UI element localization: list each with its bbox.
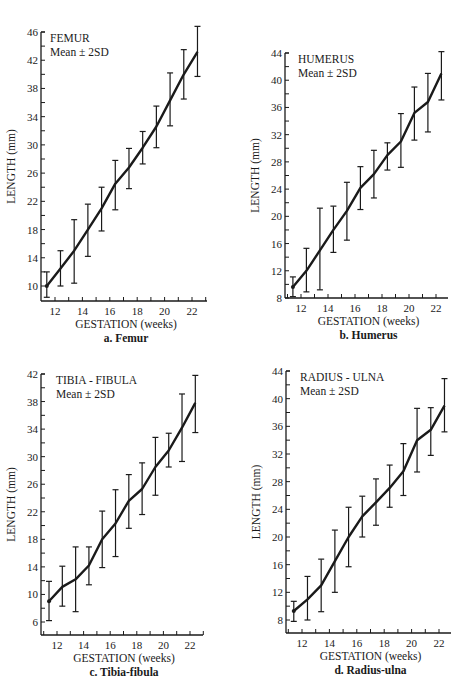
svg-text:22: 22 <box>27 506 38 518</box>
y-axis-label: LENGTH (mm) <box>5 467 18 542</box>
chart-title: RADIUS - ULNA <box>300 371 385 383</box>
chart-title: FEMUR <box>50 32 90 44</box>
mean-line <box>293 73 442 287</box>
chart-d: 8121620242832364044121416182022RADIUS - … <box>250 365 451 676</box>
svg-text:14: 14 <box>77 305 89 317</box>
svg-text:18: 18 <box>379 637 391 649</box>
svg-text:40: 40 <box>271 74 283 86</box>
mean-line <box>49 403 195 601</box>
chart-b: 8121620242832364044121416182022HUMERUSMe… <box>249 47 448 341</box>
svg-text:22: 22 <box>187 305 198 317</box>
svg-text:24: 24 <box>272 503 284 515</box>
svg-text:10: 10 <box>27 588 39 600</box>
svg-text:20: 20 <box>158 639 170 651</box>
svg-text:44: 44 <box>271 47 283 59</box>
chart-c: 6101418222630343842121416182022TIBIA - F… <box>5 368 203 678</box>
svg-text:12: 12 <box>52 639 63 651</box>
svg-text:16: 16 <box>105 639 117 651</box>
svg-text:14: 14 <box>27 561 39 573</box>
svg-text:12: 12 <box>297 637 308 649</box>
svg-text:18: 18 <box>377 302 389 314</box>
svg-text:6: 6 <box>33 616 39 628</box>
svg-text:30: 30 <box>27 139 39 151</box>
figure: 10141822263034384246121416182022FEMURMea… <box>0 0 466 700</box>
x-axis-label: GESTATION (weeks) <box>320 650 422 663</box>
chart-a: 10141822263034384246121416182022FEMURMea… <box>5 26 207 344</box>
svg-text:16: 16 <box>104 305 116 317</box>
svg-text:14: 14 <box>78 639 90 651</box>
svg-text:16: 16 <box>350 302 362 314</box>
svg-text:20: 20 <box>271 210 283 222</box>
svg-text:36: 36 <box>272 420 284 432</box>
svg-text:22: 22 <box>434 637 445 649</box>
svg-text:16: 16 <box>272 559 284 571</box>
svg-text:12: 12 <box>50 305 61 317</box>
chart-title: HUMERUS <box>298 53 354 65</box>
svg-text:32: 32 <box>272 448 283 460</box>
y-axis-label: LENGTH (mm) <box>5 129 18 204</box>
svg-text:22: 22 <box>431 302 442 314</box>
mean-line <box>294 406 445 611</box>
svg-text:10: 10 <box>27 280 39 292</box>
svg-text:18: 18 <box>27 533 39 545</box>
svg-text:8: 8 <box>278 614 284 626</box>
svg-text:16: 16 <box>351 637 363 649</box>
error-bars <box>291 379 448 622</box>
svg-text:32: 32 <box>271 129 282 141</box>
axes: 10141822263034384246121416182022 <box>27 26 207 317</box>
chart-caption: c. Tibia-fibula <box>89 666 158 678</box>
svg-text:18: 18 <box>131 639 143 651</box>
svg-text:12: 12 <box>271 265 282 277</box>
svg-text:12: 12 <box>272 586 283 598</box>
y-axis-label: LENGTH (mm) <box>250 465 263 540</box>
svg-text:14: 14 <box>324 637 336 649</box>
svg-text:18: 18 <box>132 305 144 317</box>
svg-text:22: 22 <box>27 195 38 207</box>
svg-text:46: 46 <box>27 26 39 38</box>
svg-text:34: 34 <box>27 423 39 435</box>
chart-subtitle: Mean ± 2SD <box>300 385 359 397</box>
svg-text:12: 12 <box>296 302 307 314</box>
chart-caption: d. Radius-ulna <box>334 664 406 676</box>
chart-subtitle: Mean ± 2SD <box>50 46 109 58</box>
svg-text:44: 44 <box>272 365 284 377</box>
chart-caption: a. Femur <box>104 332 149 344</box>
svg-text:28: 28 <box>271 156 283 168</box>
svg-text:42: 42 <box>27 54 38 66</box>
svg-text:18: 18 <box>27 224 39 236</box>
svg-text:28: 28 <box>272 476 284 488</box>
svg-text:8: 8 <box>277 292 283 304</box>
svg-text:26: 26 <box>27 478 39 490</box>
svg-text:14: 14 <box>27 252 39 264</box>
svg-text:22: 22 <box>185 639 196 651</box>
svg-text:30: 30 <box>27 451 39 463</box>
chart-caption: b. Humerus <box>339 329 398 341</box>
axes: 8121620242832364044121416182022 <box>271 47 448 314</box>
svg-text:38: 38 <box>27 82 39 94</box>
svg-text:20: 20 <box>272 531 284 543</box>
x-axis-label: GESTATION (weeks) <box>318 315 420 328</box>
svg-text:26: 26 <box>27 167 39 179</box>
svg-text:38: 38 <box>27 396 39 408</box>
svg-text:14: 14 <box>323 302 335 314</box>
svg-text:20: 20 <box>159 305 171 317</box>
svg-text:34: 34 <box>27 111 39 123</box>
chart-subtitle: Mean ± 2SD <box>298 67 357 79</box>
chart-title: TIBIA - FIBULA <box>56 374 138 386</box>
y-axis-label: LENGTH (mm) <box>249 138 262 213</box>
x-axis-label: GESTATION (weeks) <box>75 318 177 331</box>
svg-text:40: 40 <box>272 393 284 405</box>
svg-text:16: 16 <box>271 238 283 250</box>
chart-subtitle: Mean ± 2SD <box>56 388 115 400</box>
mean-line <box>47 52 198 286</box>
error-bars <box>44 26 201 297</box>
svg-text:36: 36 <box>271 101 283 113</box>
svg-text:42: 42 <box>27 368 38 380</box>
svg-text:20: 20 <box>404 302 416 314</box>
x-axis-label: GESTATION (weeks) <box>73 652 175 665</box>
svg-text:20: 20 <box>406 637 418 649</box>
svg-text:24: 24 <box>271 183 283 195</box>
